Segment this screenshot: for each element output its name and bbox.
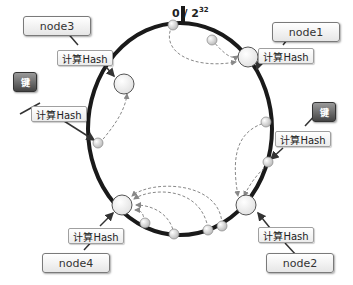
node1-hash-label: 计算Hash: [258, 48, 314, 64]
node2-box: node2: [266, 253, 334, 273]
key-left-hash-label: 计算Hash: [31, 106, 87, 122]
node4-point: [112, 195, 132, 215]
key-box-left: 键: [13, 72, 37, 92]
server-nodes: [112, 47, 258, 215]
node2-point: [236, 195, 256, 215]
origin-exponent: 32: [199, 6, 209, 14]
node1-box: node1: [272, 22, 340, 42]
key-box-right: 键: [312, 102, 336, 122]
node3-point: [114, 74, 134, 94]
node4-box: node4: [42, 253, 110, 273]
node2-hash-label: 计算Hash: [258, 227, 314, 243]
origin-label: 0 / 232: [172, 6, 209, 20]
key-right-hash-label: 计算Hash: [275, 131, 331, 147]
node1-point: [238, 47, 258, 67]
node4-hash-label: 计算Hash: [68, 228, 124, 244]
node3-hash-label: 计算Hash: [57, 50, 113, 66]
origin-base: 0 / 2: [172, 7, 199, 20]
node3-box: node3: [23, 16, 91, 36]
